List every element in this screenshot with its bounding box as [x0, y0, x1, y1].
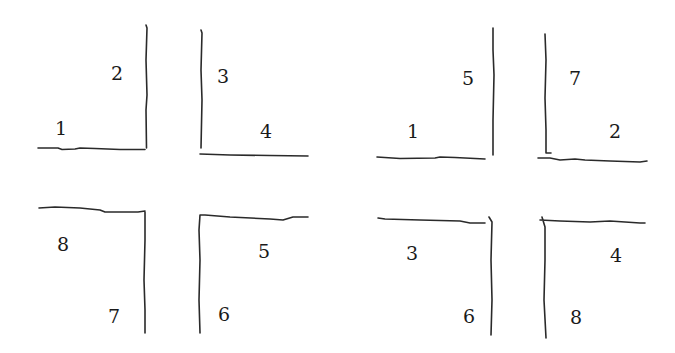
right-tl-bracket — [377, 28, 494, 159]
bracket-lines — [0, 0, 675, 353]
right-label-8: 8 — [570, 308, 582, 327]
left-label-6: 6 — [218, 305, 230, 324]
left-label-8: 8 — [57, 235, 69, 254]
left-label-7: 7 — [108, 307, 120, 326]
left-label-1: 1 — [55, 119, 67, 138]
right-label-7: 7 — [569, 69, 581, 88]
left-label-3: 3 — [217, 67, 229, 86]
right-br-bracket — [540, 217, 645, 338]
left-label-5: 5 — [258, 242, 270, 261]
right-tr-bracket — [538, 34, 647, 162]
left-figure-brackets — [38, 25, 308, 333]
left-label-4: 4 — [260, 122, 272, 141]
left-br-bracket — [199, 215, 308, 333]
right-label-5: 5 — [462, 69, 474, 88]
right-label-2: 2 — [609, 122, 621, 141]
right-label-4: 4 — [610, 246, 622, 265]
right-label-6: 6 — [463, 307, 475, 326]
left-bl-bracket — [39, 207, 145, 333]
left-label-2: 2 — [111, 64, 123, 83]
right-label-3: 3 — [406, 244, 418, 263]
right-label-1: 1 — [407, 122, 419, 141]
left-tr-bracket — [200, 30, 308, 156]
right-figure-brackets — [377, 28, 647, 338]
